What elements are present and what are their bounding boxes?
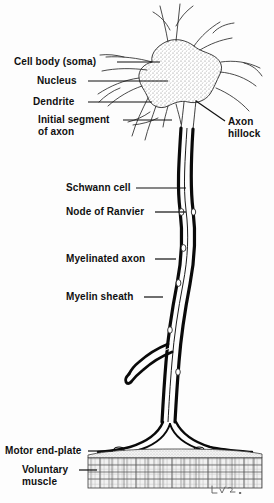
label-node-of-ranvier: Node of Ranvier <box>66 206 144 218</box>
label-axon-hillock-line1: Axon <box>228 116 253 127</box>
label-axon-hillock: Axonhillock <box>228 116 260 140</box>
label-initial-segment-line1: Initial segment <box>38 114 110 125</box>
label-node-of-ranvier-line1: Node of Ranvier <box>66 206 144 217</box>
label-myelin-sheath-line1: Myelin sheath <box>66 291 133 302</box>
cell-body-soma <box>139 40 222 108</box>
label-nucleus-line1: Nucleus <box>37 75 77 86</box>
myelinated-axon <box>162 128 195 422</box>
label-nucleus: Nucleus <box>37 75 77 87</box>
axon-hillock <box>181 100 196 129</box>
label-schwann-cell: Schwann cell <box>66 182 131 194</box>
label-initial-segment-line2: of axon <box>38 126 110 138</box>
neuron-diagram-figure: Cell body (soma)NucleusDendriteInitial s… <box>0 0 274 503</box>
label-myelin-sheath: Myelin sheath <box>66 291 133 303</box>
label-myelinated-axon-line1: Myelinated axon <box>66 253 145 264</box>
label-myelinated-axon: Myelinated axon <box>66 253 145 265</box>
label-motor-end-plate-line1: Motor end-plate <box>5 445 82 456</box>
leader-line-axon-hillock <box>196 101 225 121</box>
label-voluntary-muscle-line1: Voluntary <box>22 464 68 475</box>
label-voluntary-muscle: Voluntarymuscle <box>22 464 68 488</box>
voluntary-muscle <box>88 458 262 488</box>
label-axon-hillock-line2: hillock <box>228 128 260 140</box>
label-cell-body-line1: Cell body (soma) <box>14 56 96 67</box>
label-dendrite-line1: Dendrite <box>33 96 74 107</box>
label-dendrite: Dendrite <box>33 96 74 108</box>
label-initial-segment: Initial segmentof axon <box>38 114 110 138</box>
label-motor-end-plate: Motor end-plate <box>5 445 82 457</box>
label-cell-body: Cell body (soma) <box>14 56 96 68</box>
label-voluntary-muscle-line2: muscle <box>22 476 68 488</box>
label-schwann-cell-line1: Schwann cell <box>66 182 131 193</box>
